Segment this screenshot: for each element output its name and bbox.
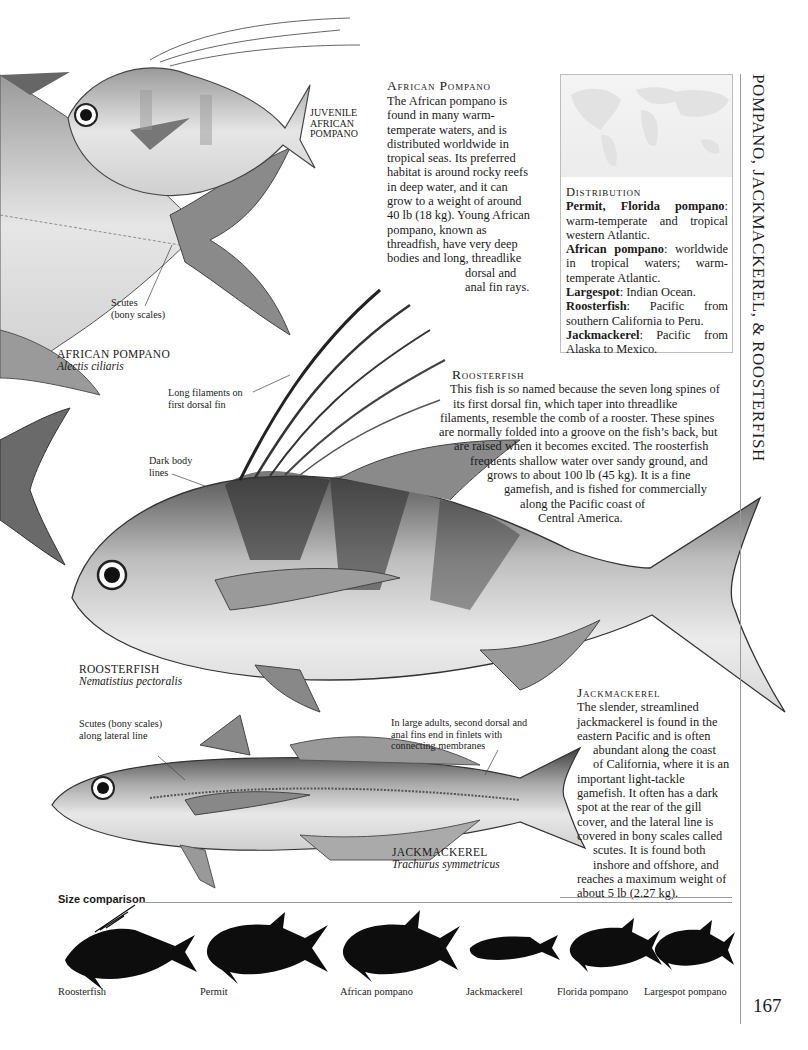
text-line: grows to about 100 lb (45 kg). It is a f… [440,468,740,482]
text-line: are raised when it becomes excited. The … [440,439,740,453]
text-line: reaches a maximum weight of [577,872,737,886]
size-comparison-rule [140,902,732,903]
text-line: This fish is so named because the seven … [440,382,740,396]
size-label-florida-pompano: Florida pompano [557,986,628,997]
text-line: of California, where it is an [577,757,737,771]
species-name: Roosterfish [566,299,627,313]
world-map-icon [561,75,732,177]
caption-common-name: JACKMACKEREL [392,846,500,858]
text-line: inshore and offshore, and [577,858,737,872]
caption-scientific-name: Trachurus symmetricus [392,858,500,870]
african-pompano-section: African Pompano The African pompano is f… [387,78,552,294]
caption-common-name: ROOSTERFISH [79,663,182,675]
jackmackerel-scutes-label: Scutes (bony scales) along lateral line [79,718,162,741]
text-line: filaments, resemble the comb of a rooste… [440,411,740,425]
label-line: anal fins end in finlets with [391,729,527,741]
size-comparison-silhouettes [65,905,735,990]
size-label-largespot-pompano: Largespot pompano [644,986,727,997]
text-line: distributed worldwide in [387,137,552,151]
size-comparison-heading: Size comparison [58,893,145,905]
scutes-label: Scutes (bony scales) [111,297,165,320]
distribution-entry: Jackmackerel: Pacific from Alaska to Mex… [566,328,728,357]
text-line: eastern Pacific and is often [577,729,737,743]
label-line: POMPANO [310,129,358,140]
distribution-entry: Permit, Florida pompano: warm-temperate … [566,199,728,242]
vertical-rule [740,74,741,1024]
juvenile-african-pompano-label: JUVENILE AFRICAN POMPANO [310,108,358,140]
distribution-entry: Roosterfish: Pacific from southern Calif… [566,299,728,328]
label-line: Scutes [111,297,165,309]
largespot-pompano-silhouette [655,920,735,970]
african-pompano-body: The African pompano is found in many war… [387,94,552,294]
text-line: dorsal and [387,266,552,280]
text-line: frequents shallow water over sandy groun… [440,454,740,468]
distribution-box: Distribution Permit, Florida pompano: wa… [560,74,733,353]
text-line: scutes. It is found both [577,843,737,857]
text-line: jackmackerel is found in the [577,715,737,729]
distribution-entry: African pompano: worldwide in tropical w… [566,242,728,285]
distribution-heading: Distribution [566,185,728,199]
text-line: anal fin rays. [387,280,552,294]
text-line: gamefish, and is fished for commercially [440,482,740,496]
running-title: POMPANO, JACKMACKEREL, & ROOSTERFISH [748,74,768,462]
distribution-text: Distribution Permit, Florida pompano: wa… [566,185,728,357]
text-line: grow to a weight of around [387,194,552,208]
label-line: In large adults, second dorsal and [391,717,527,729]
label-line: along lateral line [79,730,162,742]
range-text: : Indian Ocean. [620,285,696,299]
distribution-entry: Largespot: Indian Ocean. [566,285,728,299]
label-line: Long filaments on [168,387,243,399]
text-line: The African pompano is [387,94,552,108]
size-label-african-pompano: African pompano [340,986,413,997]
jackmackerel-caption: JACKMACKEREL Trachurus symmetricus [392,846,500,870]
size-label-permit: Permit [200,986,228,997]
roosterfish-section: Roosterfish This fish is so named becaus… [440,368,740,525]
roosterfish-heading: Roosterfish [440,368,740,382]
partial-fish-tail [0,408,70,565]
label-line: Dark body [149,455,192,467]
label-line: (bony scales) [111,309,165,321]
species-name: African pompano [566,242,664,256]
text-line: about 5 lb (2.27 kg). [577,886,737,900]
text-line: bodies and long, threadlike [387,251,552,265]
text-line: gamefish. It often has a dark [577,786,737,800]
permit-silhouette [207,912,328,984]
roosterfish-silhouette [65,929,197,990]
florida-pompano-silhouette [570,918,662,972]
world-map [561,75,732,177]
jackmackerel-heading: Jackmackerel [577,686,737,700]
label-line: connecting membranes [391,740,527,752]
jackmackerel-silhouette [470,935,560,960]
text-line: tropical seas. Its preferred [387,151,552,165]
text-line: cover, and the lateral line is [577,815,737,829]
caption-common-name: AFRICAN POMPANO [57,348,170,360]
text-line: temperate waters, and is [387,123,552,137]
caption-scientific-name: Nematistius pectoralis [79,675,182,687]
text-line: Central America. [440,511,740,525]
label-line: first dorsal fin [168,399,243,411]
species-name: Largespot [566,285,620,299]
african-pompano-caption: AFRICAN POMPANO Alectis ciliaris [57,348,170,372]
label-line: lines [149,467,192,479]
jackmackerel-section-rule [560,897,732,898]
dark-body-lines-label: Dark body lines [149,455,192,478]
text-line: threadfish, have very deep [387,237,552,251]
text-line: found in many warm- [387,108,552,122]
text-line: abundant along the coast [577,743,737,757]
text-line: in deep water, and it can [387,180,552,194]
caption-scientific-name: Alectis ciliaris [57,360,170,372]
label-line: Scutes (bony scales) [79,718,162,730]
roosterfish-caption: ROOSTERFISH Nematistius pectoralis [79,663,182,687]
text-line: covered in bony scales called [577,829,737,843]
text-line: are normally folded into a groove on the… [439,425,740,439]
species-name: Jackmackerel [566,328,639,342]
page-number: 167 [753,995,782,1017]
text-line: The slender, streamlined [577,700,737,714]
label-line: JUVENILE [310,108,358,119]
species-name: Permit, Florida pompano [566,199,725,213]
text-line: its first dorsal fin, which taper into t… [440,397,740,411]
african-pompano-heading: African Pompano [387,78,552,94]
text-line: along the Pacific coast of [440,497,740,511]
african-pompano-silhouette [343,910,460,982]
size-label-roosterfish: Roosterfish [58,986,106,997]
